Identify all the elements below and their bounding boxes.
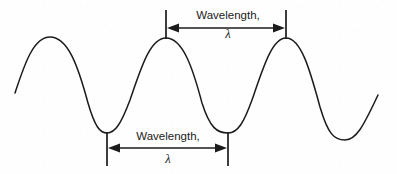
arrowhead-right-bottom [215,144,227,153]
sine-wave-curve [15,37,378,140]
wavelength-label-top: Wavelength, [196,9,260,21]
arrowhead-left-bottom [108,144,120,153]
arrowhead-left-top [167,24,179,33]
arrowhead-right-top [273,24,285,33]
wavelength-diagram: Wavelength, λ Wavelength, λ [0,0,397,174]
lambda-symbol-top: λ [224,27,231,41]
lambda-symbol-bottom: λ [164,152,171,166]
wave-figure-svg: Wavelength, λ Wavelength, λ [0,0,397,174]
wavelength-label-bottom: Wavelength, [136,130,200,142]
